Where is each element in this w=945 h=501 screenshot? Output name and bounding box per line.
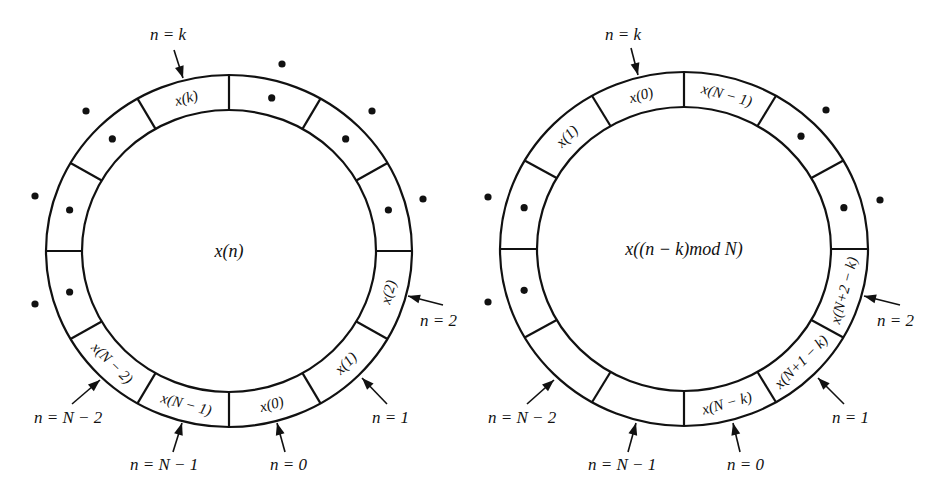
- index-pointer-label: n = k: [605, 25, 641, 44]
- index-pointer-label: n = 0: [727, 455, 764, 474]
- ellipsis-dot: [419, 195, 426, 202]
- segment-divider: [71, 322, 102, 340]
- segment-label: x(2): [377, 278, 400, 307]
- ellipsis-dot: [385, 206, 392, 213]
- ellipsis-dot: [521, 287, 528, 294]
- segment-label: x(k): [172, 87, 200, 110]
- ellipsis-dot: [66, 288, 73, 295]
- segment-label: x(1): [552, 122, 582, 152]
- shifted-sequence-circle: x(0)x(N − 1)x(N+2 − k)x(N+1 − k)x(N − k)…: [484, 25, 914, 474]
- ellipsis-dot: [31, 300, 38, 307]
- index-pointer-label: n = N − 1: [130, 455, 198, 474]
- index-pointer-label: n = 1: [832, 408, 869, 427]
- center-label: x((n − k)mod N): [624, 239, 743, 260]
- segment-divider: [356, 322, 387, 340]
- circular-shift-diagram: x(k)x(2)x(1)x(0)x(N − 1)x(N − 2)x(n)n = …: [0, 0, 945, 501]
- segment-divider: [138, 99, 156, 129]
- ellipsis-dot: [521, 204, 528, 211]
- segment-label: x(0): [257, 393, 286, 416]
- segment-label: x(N − k): [699, 389, 754, 419]
- ellipsis-dot: [822, 106, 829, 113]
- ellipsis-dot: [368, 107, 375, 114]
- index-pointer-label: n = N − 2: [34, 408, 103, 427]
- ellipsis-dot: [484, 298, 491, 305]
- arrowhead-icon: [628, 423, 637, 436]
- ellipsis-dot: [840, 204, 847, 211]
- segment-label: x(1): [331, 349, 361, 379]
- segment-divider: [303, 373, 321, 403]
- segment-divider: [71, 163, 102, 181]
- segment-divider: [758, 372, 777, 402]
- index-pointer-label: n = k: [150, 25, 186, 44]
- original-sequence-circle: x(k)x(2)x(1)x(0)x(N − 1)x(N − 2)x(n)n = …: [31, 25, 457, 474]
- segment-divider: [592, 96, 611, 126]
- segment-label: x(N − 1): [699, 80, 754, 110]
- arrowhead-icon: [408, 295, 421, 304]
- ellipsis-dot: [797, 133, 804, 140]
- index-pointer-label: n = N − 2: [488, 408, 557, 427]
- ellipsis-dot: [876, 196, 883, 203]
- index-pointer-label: n = N − 1: [588, 455, 656, 474]
- index-pointer-label: n = 2: [420, 311, 457, 330]
- index-pointer-label: n = 0: [270, 455, 307, 474]
- arrowhead-icon: [864, 295, 877, 304]
- center-label: x(n): [214, 241, 244, 262]
- segment-divider: [303, 99, 321, 129]
- ellipsis-dot: [31, 192, 38, 199]
- segment-divider: [592, 372, 611, 402]
- ellipsis-dot: [268, 94, 275, 101]
- ellipsis-dot: [82, 107, 89, 114]
- index-pointer-label: n = 1: [372, 408, 409, 427]
- ellipsis-dot: [109, 135, 116, 142]
- segment-divider: [356, 163, 387, 181]
- segment-label: x(0): [626, 84, 655, 107]
- arrowhead-icon: [631, 62, 640, 75]
- segment-label: x(N − 1): [158, 389, 213, 419]
- segment-divider: [811, 161, 843, 179]
- segment-divider: [525, 161, 557, 179]
- ellipsis-dot: [66, 206, 73, 213]
- arrowhead-icon: [174, 423, 183, 436]
- index-pointer-label: n = 2: [877, 311, 914, 330]
- arrowhead-icon: [175, 65, 184, 78]
- segment-divider: [525, 320, 557, 338]
- segment-divider: [758, 96, 777, 126]
- arrowhead-icon: [276, 423, 285, 436]
- ellipsis-dot: [342, 135, 349, 142]
- ellipsis-dot: [278, 60, 285, 67]
- segment-divider: [138, 373, 156, 403]
- ellipsis-dot: [484, 193, 491, 200]
- segment-label: x(N+2 − k): [827, 255, 861, 327]
- segment-label: x(N − 2): [87, 338, 136, 387]
